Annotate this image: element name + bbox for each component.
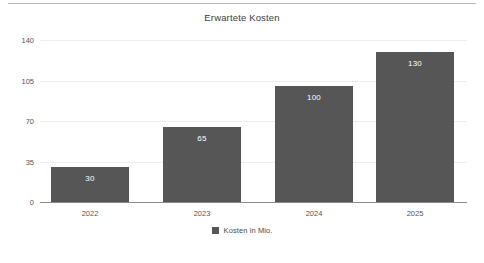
bar-slot-2023: 65 2023 [163,40,241,202]
bar-group: 30 2022 65 2023 100 2024 130 2 [40,40,467,202]
bar-value-2023: 65 [163,134,241,143]
bar-2023[interactable]: 65 [163,127,241,202]
x-axis-tick-2022: 2022 [51,209,129,218]
top-divider [8,3,476,4]
x-axis-tick-2024: 2024 [275,209,353,218]
y-axis-tick-35: 35 [26,157,34,166]
bar-slot-2022: 30 2022 [51,40,129,202]
bar-slot-2025: 130 2025 [376,40,454,202]
bar-2022[interactable]: 30 [51,167,129,202]
bar-value-2024: 100 [275,93,353,102]
y-axis-tick-140: 140 [21,36,34,45]
y-axis-tick-105: 105 [21,76,34,85]
bar-value-2022: 30 [51,174,129,183]
axis-baseline-0: 0 [40,202,467,203]
y-axis-tick-70: 70 [26,117,34,126]
bar-2025[interactable]: 130 [376,52,454,202]
legend-label-kosten: Kosten in Mio. [224,226,273,235]
x-axis-tick-2023: 2023 [163,209,241,218]
bar-value-2025: 130 [376,59,454,68]
plot-area: 140 105 70 35 0 30 2022 65 [40,40,467,202]
bar-slot-2024: 100 2024 [275,40,353,202]
chart-title: Erwartete Kosten [0,12,484,23]
bar-chart: Erwartete Kosten 140 105 70 35 0 30 2022 [0,0,484,263]
x-axis-tick-2025: 2025 [376,209,454,218]
bar-2024[interactable]: 100 [275,86,353,202]
y-axis-tick-0: 0 [30,198,34,207]
legend-swatch-icon [212,227,219,234]
chart-legend: Kosten in Mio. [0,226,484,235]
